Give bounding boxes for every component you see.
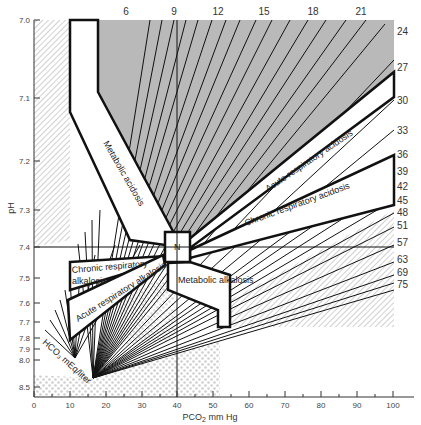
- x-tick-label: 30: [138, 401, 147, 410]
- y-tick-label: 7.8: [19, 334, 31, 343]
- isopleth-label-top: 15: [258, 6, 270, 17]
- x-axis-title: PCO2 mm Hg: [183, 412, 238, 423]
- isopleth-label-right: 39: [397, 166, 409, 177]
- isopleth-label-top: 18: [307, 6, 319, 17]
- x-tick-label: 70: [281, 401, 290, 410]
- y-tick-label: 7.5: [19, 274, 31, 283]
- x-tick-label: 60: [245, 401, 254, 410]
- y-tick-label: 7.6: [19, 299, 31, 308]
- y-tick-label: 7.1: [19, 94, 31, 103]
- isopleth-label-right: 57: [397, 237, 409, 248]
- isopleth-label-top: 21: [355, 6, 367, 17]
- y-tick-label: 7.7: [19, 318, 31, 327]
- isopleth-label-right: 27: [397, 62, 409, 73]
- x-tick-label: 10: [66, 401, 75, 410]
- y-tick-labels: 7.0 7.1 7.2 7.3 7.4 7.5 7.6 7.7 7.8 7.9 …: [19, 16, 31, 392]
- y-tick-label: 7.0: [19, 16, 31, 25]
- isopleth-label-right: 33: [397, 125, 409, 136]
- isopleth-label-top: 6: [123, 6, 129, 17]
- x-tick-label: 20: [102, 401, 111, 410]
- x-tick-label: 50: [209, 401, 218, 410]
- isopleth-label-right: 63: [397, 254, 409, 265]
- isopleth-label-right: 45: [397, 195, 409, 206]
- label-normal: N: [174, 242, 181, 252]
- isopleth-label-right: 36: [397, 149, 409, 160]
- isopleth-label-right: 30: [397, 95, 409, 106]
- x-axis-title-unit: mm Hg: [206, 412, 238, 422]
- label-chronic-respiratory-alkalosis-2: alkalosis: [72, 276, 107, 286]
- x-tick-label: 40: [173, 401, 182, 410]
- right-isopleth-labels: 24 27 30 33 36 39 42 45 48 51 57 63 69 7…: [397, 26, 409, 290]
- isopleth-label-right: 24: [397, 26, 409, 37]
- isopleth-label-top: 12: [212, 6, 224, 17]
- isopleth-label-right: 75: [397, 279, 409, 290]
- y-tick-label: 7.3: [19, 206, 31, 215]
- y-tick-label: 8.0: [19, 356, 31, 365]
- x-tick-label: 90: [353, 401, 362, 410]
- x-tick-label: 100: [386, 401, 400, 410]
- y-tick-label: 7.2: [19, 157, 31, 166]
- isopleth-label-right: 48: [397, 207, 409, 218]
- isopleth-label-right: 42: [397, 181, 409, 192]
- y-tick-label: 8.5: [19, 383, 31, 392]
- isopleth-label-top: 9: [171, 6, 177, 17]
- y-tick-label: 7.4: [19, 243, 31, 252]
- hatched-area-left: [34, 20, 70, 247]
- isopleth-label-right: 69: [397, 267, 409, 278]
- x-tick-labels: 0 10 20 30 40 50 60 70 80 90 100: [32, 401, 400, 410]
- y-tick-label: 7.9: [19, 345, 31, 354]
- x-tick-label: 0: [32, 401, 37, 410]
- y-axis-title: pH: [6, 202, 16, 214]
- x-tick-label: 80: [317, 401, 326, 410]
- top-isopleth-labels: 6 9 12 15 18 21: [123, 6, 367, 17]
- isopleth-label-right: 51: [397, 220, 409, 231]
- label-metabolic-alkalosis: Metabolic alkalosis: [178, 275, 254, 285]
- x-axis-title-main: PCO: [183, 412, 203, 422]
- acid-base-nomogram: 7.0 7.1 7.2 7.3 7.4 7.5 7.6 7.7 7.8 7.9 …: [0, 0, 421, 425]
